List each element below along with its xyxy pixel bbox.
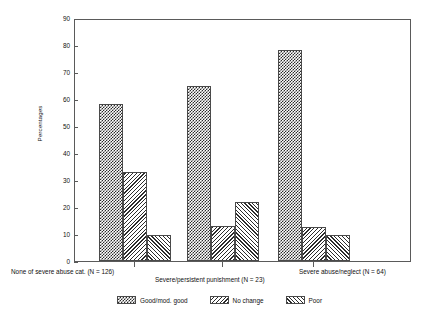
y-tick-mark [74, 235, 78, 236]
y-tick-mark [74, 154, 78, 155]
legend-item: No change [210, 296, 264, 304]
y-tick-mark [74, 262, 78, 263]
legend-item: Poor [286, 296, 323, 304]
bar [278, 50, 302, 261]
bar [302, 227, 326, 261]
legend-label: Poor [309, 297, 323, 304]
y-tick-label: 20 [50, 205, 70, 211]
bar [326, 235, 350, 261]
y-tick-mark [74, 127, 78, 128]
legend-label: No change [233, 297, 264, 304]
y-tick-label: 50 [50, 124, 70, 130]
x-axis-tick [134, 262, 135, 267]
plot-area [74, 19, 411, 262]
legend-label: Good/mod. good [140, 297, 188, 304]
y-tick-label: 40 [50, 151, 70, 157]
y-tick-mark [74, 208, 78, 209]
bar [187, 86, 211, 262]
legend-swatch [210, 296, 229, 304]
bar [147, 235, 171, 261]
y-tick-mark [74, 46, 78, 47]
x-axis-group-label: None of severe abuse cat. (N = 126) [11, 268, 114, 276]
y-tick-mark [74, 181, 78, 182]
bar [99, 104, 123, 261]
x-axis-tick [222, 262, 223, 267]
x-axis-tick [313, 262, 314, 267]
bar [235, 202, 259, 261]
legend-swatch [286, 296, 305, 304]
y-tick-label: 90 [50, 16, 70, 22]
y-tick-label: 80 [50, 43, 70, 49]
y-tick-label: 60 [50, 97, 70, 103]
y-axis-title: Percentages [36, 79, 43, 169]
y-tick-label: 30 [50, 178, 70, 184]
y-tick-label: 70 [50, 70, 70, 76]
y-tick-label: 10 [50, 232, 70, 238]
bar-chart-figure: Percentages None of severe abuse cat. (N… [0, 0, 439, 324]
x-axis-group-label: Severe abuse/neglect (N = 64) [299, 268, 386, 276]
bar [211, 226, 235, 261]
y-tick-label: 0 [50, 259, 70, 265]
legend-item: Good/mod. good [117, 296, 188, 304]
bar [123, 172, 147, 261]
legend-swatch [117, 296, 136, 304]
y-tick-mark [74, 19, 78, 20]
chart-legend: Good/mod. goodNo changePoor [0, 296, 439, 304]
y-tick-mark [74, 100, 78, 101]
y-tick-mark [74, 73, 78, 74]
x-axis-group-label: Severe/persistent punishment (N = 23) [155, 276, 265, 284]
